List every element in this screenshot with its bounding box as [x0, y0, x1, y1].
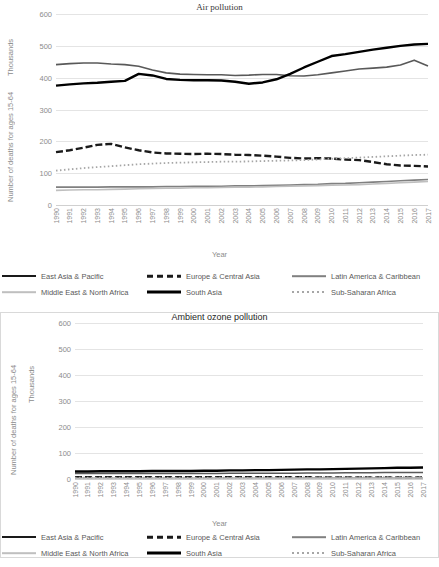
- x-tick-label: 1992: [97, 482, 104, 498]
- series-lines: [56, 14, 428, 205]
- legend-item-sub-saharan-africa[interactable]: Sub-Saharan Africa: [292, 288, 437, 297]
- series-line: [56, 155, 428, 171]
- x-tick-label: 2003: [232, 208, 239, 224]
- x-tick-label: 2003: [239, 482, 246, 498]
- legend-label: Latin America & Caribbean: [331, 533, 420, 542]
- x-tick-label: 2013: [368, 482, 375, 498]
- x-axis-tick-labels: 1990199119921993199419951996199719981999…: [56, 208, 428, 248]
- y-tick-label: 500: [39, 41, 52, 50]
- series-line: [75, 468, 423, 472]
- legend-ambient-ozone: East Asia & PacificEurope & Central Asia…: [1, 529, 438, 561]
- legend-item-east-asia-pacific[interactable]: East Asia & Pacific: [2, 272, 147, 281]
- x-tick-label: 2005: [259, 208, 266, 224]
- x-tick-label: 1999: [177, 208, 184, 224]
- x-tick-label: 2013: [369, 208, 376, 224]
- y-axis-title: Number of deaths for ages 15-64: [9, 355, 18, 475]
- x-tick-label: 1993: [110, 482, 117, 498]
- legend-item-europe-central-asia[interactable]: Europe & Central Asia: [147, 272, 292, 281]
- y-axis-tick-labels: 6005004003002001000: [0, 14, 52, 205]
- x-tick-label: 2006: [273, 208, 280, 224]
- legend-label: Latin America & Caribbean: [331, 272, 420, 281]
- y-tick-label: 600: [58, 319, 71, 328]
- x-tick-label: 2006: [278, 482, 285, 498]
- x-tick-label: 2000: [200, 482, 207, 498]
- x-tick-label: 2016: [411, 208, 418, 224]
- y-tick-label: 200: [39, 137, 52, 146]
- x-tick-label: 2004: [252, 482, 259, 498]
- x-tick-label: 2015: [397, 208, 404, 224]
- x-axis-title: Year: [0, 250, 439, 259]
- legend-row: Middle East & North AfricaSouth AsiaSub-…: [0, 284, 439, 300]
- legend-swatch-icon: [147, 550, 181, 556]
- x-tick-label: 2004: [245, 208, 252, 224]
- legend-label: Europe & Central Asia: [186, 533, 260, 542]
- x-tick-label: 1999: [188, 482, 195, 498]
- legend-item-middle-east-north-africa[interactable]: Middle East & North Africa: [2, 549, 147, 558]
- x-tick-label: 2015: [394, 482, 401, 498]
- x-tick-label: 2009: [314, 208, 321, 224]
- legend-swatch-icon: [2, 273, 36, 279]
- y-tick-label: 100: [58, 449, 71, 458]
- legend-label: Middle East & North Africa: [41, 288, 129, 297]
- y-tick-label: 300: [39, 105, 52, 114]
- gridline: [56, 205, 428, 206]
- x-tick-label: 2008: [301, 208, 308, 224]
- legend-item-middle-east-north-africa[interactable]: Middle East & North Africa: [2, 288, 147, 297]
- legend-item-latin-america-caribbean[interactable]: Latin America & Caribbean: [292, 272, 437, 281]
- y-tick-label: 600: [39, 10, 52, 19]
- legend-swatch-icon: [2, 534, 36, 540]
- x-tick-label: 2000: [190, 208, 197, 224]
- legend-swatch-icon: [292, 289, 326, 295]
- x-tick-label: 2010: [329, 482, 336, 498]
- y-tick-label: 0: [67, 475, 71, 484]
- legend-item-europe-central-asia[interactable]: Europe & Central Asia: [147, 533, 292, 542]
- y-tick-label: 300: [58, 397, 71, 406]
- legend-swatch-icon: [147, 289, 181, 295]
- x-tick-label: 2014: [383, 208, 390, 224]
- y-tick-label: 0: [48, 201, 52, 210]
- legend-row: East Asia & PacificEurope & Central Asia…: [0, 268, 439, 284]
- x-tick-label: 1998: [163, 208, 170, 224]
- legend-swatch-icon: [292, 534, 326, 540]
- y-tick-label: 500: [58, 345, 71, 354]
- x-tick-label: 2011: [342, 208, 349, 223]
- x-tick-label: 1995: [121, 208, 128, 224]
- legend-label: South Asia: [186, 288, 222, 297]
- x-tick-label: 2014: [381, 482, 388, 498]
- x-tick-label: 2010: [328, 208, 335, 224]
- legend-label: East Asia & Pacific: [41, 533, 104, 542]
- legend-swatch-icon: [147, 534, 181, 540]
- legend-swatch-icon: [292, 273, 326, 279]
- x-tick-label: 2002: [226, 482, 233, 498]
- x-tick-label: 1990: [72, 482, 79, 498]
- plot-area-air-pollution: [56, 14, 428, 205]
- legend-item-south-asia[interactable]: South Asia: [147, 549, 292, 558]
- legend-item-east-asia-pacific[interactable]: East Asia & Pacific: [2, 533, 147, 542]
- x-tick-label: 1997: [162, 482, 169, 498]
- legend-item-south-asia[interactable]: South Asia: [147, 288, 292, 297]
- x-tick-label: 2001: [204, 208, 211, 224]
- x-tick-label: 2007: [291, 482, 298, 498]
- x-tick-label: 1994: [123, 482, 130, 498]
- x-tick-label: 1996: [149, 482, 156, 498]
- plot-area-ambient-ozone: [75, 323, 423, 479]
- x-tick-label: 2008: [304, 482, 311, 498]
- x-tick-label: 2001: [213, 482, 220, 498]
- legend-air-pollution: East Asia & PacificEurope & Central Asia…: [0, 268, 439, 304]
- series-line: [56, 60, 428, 76]
- legend-swatch-icon: [147, 273, 181, 279]
- series-line: [75, 473, 423, 474]
- legend-swatch-icon: [292, 550, 326, 556]
- x-tick-label: 2011: [342, 482, 349, 497]
- x-tick-label: 2017: [420, 482, 427, 498]
- x-tick-label: 1993: [94, 208, 101, 224]
- x-tick-label: 2009: [316, 482, 323, 498]
- y-tick-label: 100: [39, 169, 52, 178]
- legend-item-sub-saharan-africa[interactable]: Sub-Saharan Africa: [292, 549, 437, 558]
- y-tick-label: 400: [39, 73, 52, 82]
- legend-item-latin-america-caribbean[interactable]: Latin America & Caribbean: [292, 533, 437, 542]
- x-tick-label: 1995: [136, 482, 143, 498]
- x-tick-label: 2017: [425, 208, 432, 224]
- x-tick-label: 2007: [287, 208, 294, 224]
- y-tick-label: 200: [58, 423, 71, 432]
